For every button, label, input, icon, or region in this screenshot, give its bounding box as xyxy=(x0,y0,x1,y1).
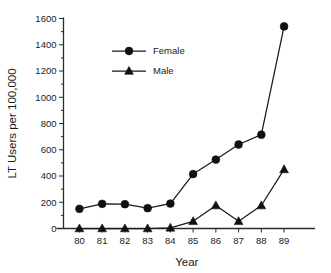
legend-label: Male xyxy=(153,65,174,76)
legend-item-male: Male xyxy=(112,65,174,76)
data-point-triangle xyxy=(211,201,220,209)
data-point-triangle xyxy=(234,217,243,225)
legend-marker-circle xyxy=(125,47,133,55)
y-tick-label: 600 xyxy=(41,144,57,155)
y-axis-ticks: 02004006008001000120014001600 xyxy=(35,13,63,234)
y-tick-label: 1000 xyxy=(35,92,56,103)
data-point-circle xyxy=(144,204,152,212)
data-point-circle xyxy=(98,200,106,208)
y-axis-label: LT Users per 100,000 xyxy=(6,68,18,178)
x-tick-label: 83 xyxy=(142,235,153,246)
data-point-circle xyxy=(76,205,84,213)
legend: FemaleMale xyxy=(112,45,185,76)
y-tick-label: 1600 xyxy=(35,13,56,24)
series-line-male xyxy=(79,169,284,228)
x-axis-label: Year xyxy=(175,256,198,268)
line-chart: 0200400600800100012001400160080818283848… xyxy=(0,0,331,273)
data-point-circle xyxy=(212,156,220,164)
data-point-circle xyxy=(235,141,243,149)
x-tick-label: 86 xyxy=(211,235,222,246)
data-point-triangle xyxy=(280,165,289,173)
y-tick-label: 0 xyxy=(51,223,56,234)
x-tick-label: 85 xyxy=(188,235,199,246)
x-tick-label: 80 xyxy=(74,235,85,246)
legend-label: Female xyxy=(153,45,185,56)
data-point-circle xyxy=(257,131,265,139)
legend-marker-triangle xyxy=(125,66,134,74)
data-point-triangle xyxy=(189,217,198,225)
data-point-circle xyxy=(121,200,129,208)
y-tick-label: 200 xyxy=(41,197,57,208)
y-tick-label: 400 xyxy=(41,170,57,181)
data-point-triangle xyxy=(257,201,266,209)
x-tick-label: 81 xyxy=(97,235,108,246)
y-tick-label: 1200 xyxy=(35,65,56,76)
y-tick-label: 800 xyxy=(41,118,57,129)
data-point-circle xyxy=(166,200,174,208)
x-tick-label: 88 xyxy=(256,235,267,246)
x-tick-label: 82 xyxy=(120,235,131,246)
x-tick-label: 84 xyxy=(165,235,176,246)
series-male xyxy=(75,165,288,232)
data-point-circle xyxy=(280,22,288,30)
x-tick-label: 87 xyxy=(233,235,244,246)
data-point-circle xyxy=(189,170,197,178)
x-tick-label: 89 xyxy=(279,235,290,246)
y-tick-label: 1400 xyxy=(35,39,56,50)
chart-figure: 0200400600800100012001400160080818283848… xyxy=(0,0,331,273)
legend-item-female: Female xyxy=(112,45,185,56)
